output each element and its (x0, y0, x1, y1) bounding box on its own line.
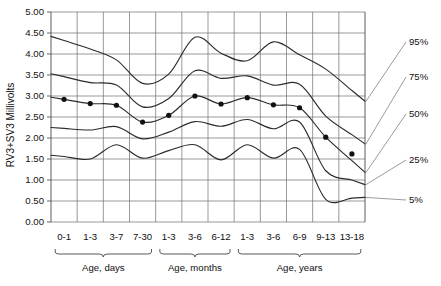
x-tick-label: 1-3 (162, 231, 176, 242)
x-tick-label: 6-9 (293, 231, 307, 242)
x-tick-label: 0-1 (57, 231, 71, 242)
x-tick-label: 3-6 (266, 231, 280, 242)
group-bracket (238, 249, 360, 257)
y-axis-title: RV3+SV3 Millivolts (5, 83, 16, 168)
x-tick-label: 13-18 (340, 231, 365, 242)
x-tick-label: 3-6 (188, 231, 202, 242)
y-tick-label: 0.50 (25, 195, 44, 206)
x-tick-label: 1-3 (240, 231, 254, 242)
y-tick-label: 5.00 (25, 6, 44, 17)
data-point-marker (166, 113, 171, 118)
data-point-marker (140, 119, 145, 124)
grid-layer (47, 12, 365, 222)
y-tick-label: 4.00 (25, 48, 44, 59)
x-tick-label: 7-30 (133, 231, 152, 242)
chart-canvas: 0.000.501.001.502.002.503.003.504.004.50… (0, 0, 441, 286)
group-bracket (160, 249, 230, 257)
data-point-marker (323, 135, 328, 140)
data-point-marker (114, 103, 119, 108)
data-point-marker (245, 95, 250, 100)
data-point-marker (349, 151, 354, 156)
y-axis-tick-labels: 0.000.501.001.502.002.503.003.504.004.50… (25, 6, 44, 227)
percentile-label-95pct: 95% (409, 36, 429, 47)
data-point-marker (61, 97, 66, 102)
percentile-label-50pct: 50% (409, 108, 429, 119)
y-tick-label: 2.00 (25, 132, 44, 143)
group-brackets (55, 249, 361, 257)
group-label: Age, days (82, 262, 125, 273)
group-label: Age, months (168, 262, 222, 273)
x-tick-label: 1-3 (83, 231, 97, 242)
data-point-marker (271, 102, 276, 107)
group-labels: Age, daysAge, monthsAge, years (82, 262, 323, 273)
y-tick-label: 1.00 (25, 174, 44, 185)
percentile-annotations: 95%75%50%25%5% (366, 36, 429, 205)
y-tick-label: 4.50 (25, 27, 44, 38)
percentile-label-5pct: 5% (409, 194, 423, 205)
group-bracket (55, 249, 151, 257)
annotation-leader-line (366, 197, 406, 200)
y-tick-label: 1.50 (25, 153, 44, 164)
data-point-marker (297, 105, 302, 110)
annotation-leader-line (366, 77, 406, 144)
x-tick-label: 3-7 (109, 231, 123, 242)
data-point-marker (88, 101, 93, 106)
x-tick-label: 9-13 (316, 231, 335, 242)
y-tick-label: 3.00 (25, 90, 44, 101)
data-point-marker (218, 101, 223, 106)
group-label: Age, years (277, 262, 323, 273)
y-tick-label: 3.50 (25, 69, 44, 80)
y-tick-label: 0.00 (25, 216, 44, 227)
y-tick-label: 2.50 (25, 111, 44, 122)
annotation-leader-line (366, 42, 406, 101)
x-tick-label: 6-12 (211, 231, 230, 242)
x-axis-tick-labels: 0-11-33-77-301-33-66-121-33-66-99-1313-1… (57, 231, 364, 242)
percentile-chart: 0.000.501.001.502.002.503.003.504.004.50… (0, 0, 441, 286)
percentile-label-75pct: 75% (409, 71, 429, 82)
data-point-marker (192, 93, 197, 98)
percentile-label-25pct: 25% (409, 154, 429, 165)
